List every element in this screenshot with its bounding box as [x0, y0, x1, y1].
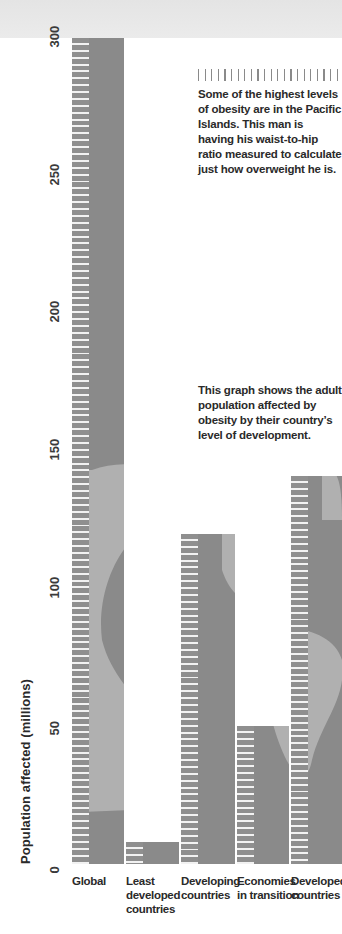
- x-category-label: Developingcountries: [181, 874, 240, 902]
- x-category-label: Leastdevelopedcountries: [126, 874, 180, 916]
- x-category-label: Economiesin transition: [237, 874, 299, 902]
- y-tick-label: 0: [44, 856, 64, 872]
- bar-least-developed-countries: [126, 842, 179, 864]
- bar-economies-in-transition: [237, 726, 289, 864]
- scale-tick-marks: [126, 842, 143, 864]
- bar-developed-countries: [291, 476, 342, 864]
- y-axis-title: Population affected (millions): [18, 679, 33, 864]
- y-tick-label: 50: [44, 718, 64, 734]
- bar-global: [72, 38, 124, 864]
- scale-tick-marks: [72, 38, 89, 864]
- y-tick-label: 250: [44, 168, 64, 184]
- scale-tick-marks: [291, 476, 308, 864]
- scale-tick-marks: [181, 534, 198, 864]
- y-tick-label: 150: [44, 443, 64, 459]
- bar-developing-countries: [181, 534, 235, 864]
- y-tick-label: 200: [44, 305, 64, 321]
- y-tick-label: 100: [44, 581, 64, 597]
- x-category-label: Global: [72, 874, 106, 888]
- scale-tick-marks: [237, 726, 254, 864]
- bar-chart-plot: [72, 0, 342, 864]
- x-category-label: Developedcountries: [291, 874, 342, 902]
- y-tick-label: 300: [44, 30, 64, 46]
